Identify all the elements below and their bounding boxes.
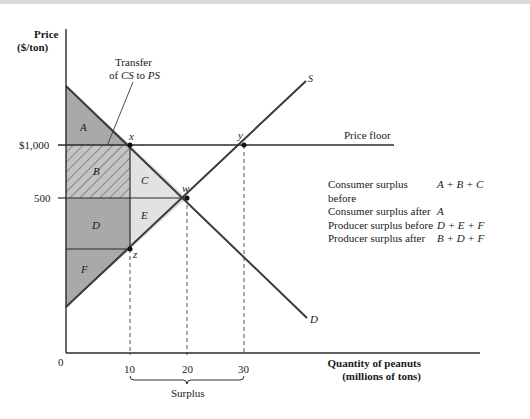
legend-value: B + D + F xyxy=(437,232,484,246)
region-a-label: A xyxy=(80,121,87,134)
region-e-label: E xyxy=(141,209,148,222)
transfer-text-to: to xyxy=(134,69,148,81)
legend-value: D + E + F xyxy=(437,219,484,233)
transfer-text-of: of xyxy=(109,69,121,81)
transfer-label-line1: Transfer xyxy=(115,56,152,69)
y-tick-1000: $1,000 xyxy=(19,139,49,152)
surplus-brace xyxy=(130,376,244,384)
transfer-text-ps: PS xyxy=(148,69,160,81)
point-x xyxy=(128,143,133,148)
legend-row: Producer surplus after B + D + F xyxy=(328,232,484,246)
point-z-label: z xyxy=(133,248,137,261)
legend-label: Producer surplus after xyxy=(328,232,437,246)
region-d-label: D xyxy=(92,219,100,232)
surplus-legend: Consumer surplus before A + B + C Consum… xyxy=(328,178,484,246)
point-w xyxy=(185,196,190,201)
region-c xyxy=(130,145,187,198)
legend-value: A xyxy=(437,205,444,219)
legend-value: A + B + C xyxy=(437,178,483,205)
x-tick-10: 10 xyxy=(124,363,135,376)
y-tick-500: 500 xyxy=(34,192,51,205)
point-y xyxy=(242,143,247,148)
supply-label: S xyxy=(308,72,313,85)
region-b-label: B xyxy=(93,165,100,178)
y-axis-title-line1: Price xyxy=(34,28,58,41)
demand-label: D xyxy=(310,313,318,326)
region-e xyxy=(130,198,187,249)
legend-label: Consumer surplus before xyxy=(328,178,437,205)
region-f-label: F xyxy=(81,263,88,276)
point-w-label: w xyxy=(182,182,189,195)
price-floor-label: Price floor xyxy=(344,129,391,142)
x-tick-0: 0 xyxy=(58,356,64,369)
surplus-label: Surplus xyxy=(171,387,205,400)
legend-row: Consumer surplus before A + B + C xyxy=(328,178,484,205)
legend-label: Consumer surplus after xyxy=(328,205,437,219)
point-z xyxy=(128,247,133,252)
transfer-label-line2: of CS to PS xyxy=(109,69,160,82)
x-axis-title-line2: (millions of tons) xyxy=(342,370,421,383)
transfer-text-cs: CS xyxy=(121,69,134,81)
legend-row: Producer surplus before D + E + F xyxy=(328,219,484,233)
legend-row: Consumer surplus after A xyxy=(328,205,484,219)
point-y-label: y xyxy=(238,129,243,142)
point-x-label: x xyxy=(129,130,134,143)
x-tick-30: 30 xyxy=(238,363,249,376)
x-tick-20: 20 xyxy=(182,363,193,376)
x-axis-title-line1: Quantity of peanuts xyxy=(327,357,421,370)
y-axis-title-line2: ($/ton) xyxy=(17,41,48,54)
legend-label: Producer surplus before xyxy=(328,219,437,233)
region-c-label: C xyxy=(141,174,148,187)
